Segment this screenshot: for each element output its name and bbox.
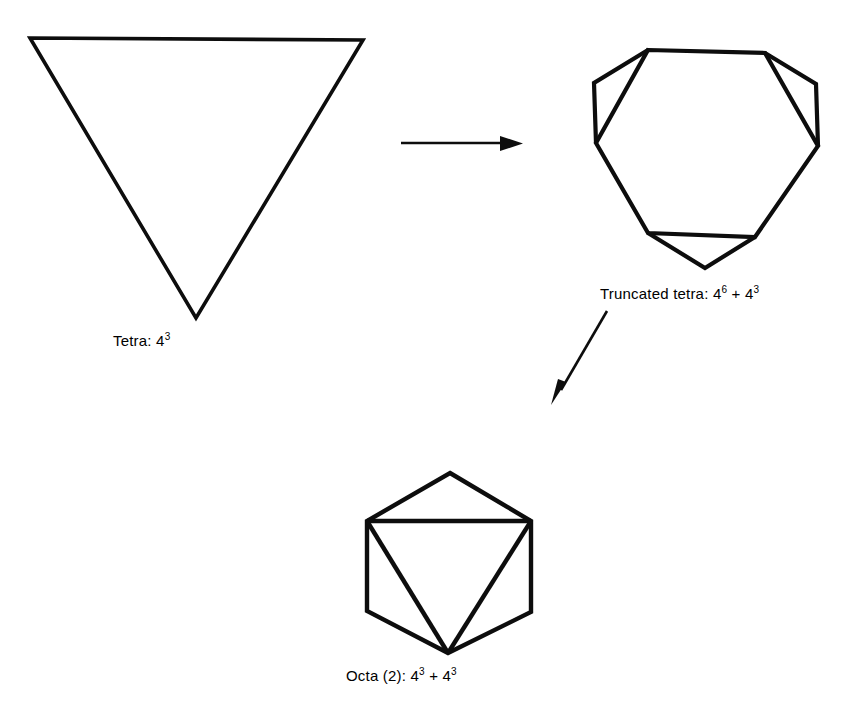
polyhedron-diagram xyxy=(0,0,848,707)
octahedron-shape xyxy=(367,473,531,653)
tetrahedron-caption-exponent: 3 xyxy=(165,331,171,342)
arrow-head xyxy=(500,136,523,151)
truncated-tetrahedron-shape xyxy=(594,50,818,268)
octahedron-caption-exponent-2: 3 xyxy=(451,666,457,677)
tetrahedron-caption: Tetra: 43 xyxy=(113,332,170,349)
arrow-truncated-to-octa xyxy=(551,311,607,405)
tetrahedron-shape xyxy=(30,38,363,318)
truncated-caption-prefix: Truncated tetra: 4 xyxy=(600,285,721,302)
truncated-tetra-hexagon xyxy=(596,50,818,237)
tetrahedron-caption-text: Tetra: 4 xyxy=(113,332,165,349)
octahedron-caption-plus: + 4 xyxy=(425,667,451,684)
arrow-head xyxy=(551,379,566,405)
octahedron-caption-prefix: Octa (2): 4 xyxy=(346,667,419,684)
truncated-caption-plus: + 4 xyxy=(727,285,753,302)
figure-root: Tetra: 43 Truncated tetra: 46 + 43 Octa … xyxy=(0,0,848,707)
tetrahedron-outline xyxy=(30,38,363,318)
truncated-tetrahedron-caption: Truncated tetra: 46 + 43 xyxy=(600,285,759,302)
octahedron-caption: Octa (2): 43 + 43 xyxy=(346,667,457,684)
arrow-tetra-to-truncated xyxy=(401,136,523,151)
arrow-shaft xyxy=(561,311,607,390)
truncated-caption-exponent-2: 3 xyxy=(753,284,759,295)
